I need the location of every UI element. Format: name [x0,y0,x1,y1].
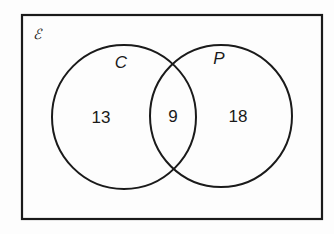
c-only-count: 13 [92,108,111,127]
p-only-count: 18 [229,107,248,126]
universal-set-symbol: ℰ [33,26,43,42]
set-p-label: P [213,49,225,68]
intersection-count: 9 [168,107,177,126]
venn-diagram: ℰ C P 13 9 18 [0,0,334,234]
set-c-label: C [115,53,128,72]
